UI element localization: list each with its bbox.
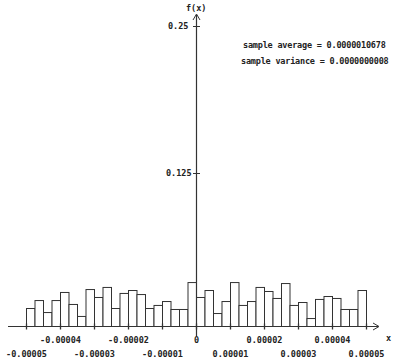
x-tick-label: -0.00001 [142, 349, 183, 359]
histogram-bar [256, 287, 265, 326]
y-tick-label-mid: 0.125 [166, 168, 192, 178]
y-tick-label-top: 0.25 [168, 21, 188, 31]
histogram-bar [350, 309, 359, 326]
sample-variance-annotation: sample variance = 0.0000000008 [241, 56, 389, 66]
histogram-bar [341, 309, 350, 326]
histogram-bar [95, 297, 104, 326]
histogram-bar [316, 299, 325, 326]
x-tick-label: 0.00001 [213, 349, 249, 359]
histogram-bar [137, 295, 146, 327]
histogram-bar [86, 290, 95, 327]
histogram-bar [222, 302, 231, 327]
y-axis-label: f(x) [186, 3, 206, 13]
histogram-bar [120, 293, 129, 326]
histogram-bar [44, 313, 53, 327]
histogram-bar [78, 316, 87, 326]
histogram-bar [214, 314, 223, 327]
histogram-bar [146, 309, 155, 327]
histogram-bar [112, 309, 121, 327]
histogram-bar [163, 302, 172, 327]
histogram-bar [154, 305, 163, 326]
histogram-bar [197, 297, 206, 326]
histogram-bar [52, 301, 61, 327]
histogram-chart [0, 0, 400, 364]
histogram-bar [299, 303, 308, 327]
histogram-bar [188, 283, 197, 327]
x-tick-label: -0.00005 [6, 349, 47, 359]
histogram-bar [282, 284, 291, 327]
x-tick-label: 0.00004 [315, 335, 351, 345]
histogram-bar [333, 298, 342, 326]
sample-average-annotation: sample average = 0.0000010678 [243, 40, 386, 50]
x-tick-label: 0 [194, 335, 199, 345]
histogram-bar [27, 309, 36, 327]
x-tick-label: 0.00003 [281, 349, 317, 359]
histogram-bar [273, 298, 282, 326]
histogram-bar [61, 292, 70, 326]
histogram-bar [171, 309, 180, 326]
histogram-bar [265, 291, 274, 326]
histogram-bar [290, 305, 299, 326]
histogram-bar [129, 291, 138, 327]
histogram-bar [307, 319, 316, 327]
histogram-bar [103, 287, 112, 326]
histogram-bar [231, 283, 240, 327]
histogram-bar [180, 309, 189, 326]
x-tick-label: 0.00002 [247, 335, 283, 345]
x-tick-label: -0.00004 [40, 335, 81, 345]
histogram-bar [205, 291, 214, 327]
x-tick-label: -0.00002 [108, 335, 149, 345]
histogram-bar [239, 305, 248, 326]
histogram-bar [248, 302, 257, 327]
histogram-bar [358, 291, 367, 327]
x-axis-label: x [386, 333, 391, 343]
x-tick-label: 0.00005 [349, 349, 385, 359]
histogram-bar [69, 304, 78, 326]
x-tick-label: -0.00003 [74, 349, 115, 359]
histogram-bar [35, 301, 44, 327]
histogram-bar [324, 297, 333, 327]
